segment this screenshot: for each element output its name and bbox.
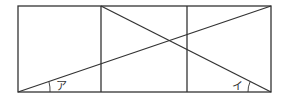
angle-label-i: イ <box>232 80 243 93</box>
angle-arc-i <box>248 82 250 92</box>
diagonal-short <box>101 6 271 92</box>
geometry-diagram: ア イ <box>0 0 287 100</box>
angle-label-a: ア <box>56 80 67 93</box>
angle-arc-a <box>49 82 50 92</box>
